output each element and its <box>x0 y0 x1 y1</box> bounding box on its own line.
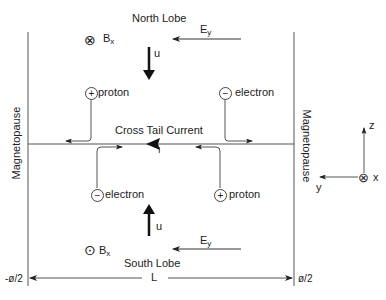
magnetotail-diagram: North Lobe ⊗ Bx Ey u + proton − electron… <box>0 0 386 300</box>
right-edge-label: ø/2 <box>298 274 312 284</box>
ey-sub: y <box>207 239 211 248</box>
south-bx-label: Bx <box>99 245 110 258</box>
south-proton-charge-icon: + <box>214 189 227 202</box>
south-electron-charge-icon: − <box>91 189 104 202</box>
current-symbol: I <box>158 146 161 155</box>
north-electron-label: electron <box>235 87 274 98</box>
south-proton-path <box>196 147 220 188</box>
south-bx-icon: ⊙ <box>84 243 96 257</box>
north-bx-icon: ⊗ <box>84 33 96 47</box>
z-axis-label: z <box>369 120 375 131</box>
right-magnetopause-label: Magnetopause <box>301 110 312 180</box>
y-axis-label: y <box>316 182 322 193</box>
south-lobe-title: South Lobe <box>124 258 180 269</box>
ey-sub: y <box>207 28 211 37</box>
left-edge-label: -ø/2 <box>5 274 23 284</box>
north-electron-path <box>225 100 252 141</box>
left-magnetopause-label: Magnetopause <box>11 110 22 180</box>
south-electron-label: electron <box>105 189 144 200</box>
north-proton-charge-icon: + <box>85 87 98 100</box>
x-axis-icon: ⊗ <box>358 171 369 184</box>
width-label: L <box>151 272 157 283</box>
bx-sub: x <box>110 37 114 46</box>
x-axis-label: x <box>373 172 379 183</box>
diagram-lines <box>0 0 386 300</box>
north-u-label: u <box>154 48 160 59</box>
south-electron-path <box>97 147 122 188</box>
south-ey-label: Ey <box>200 235 211 248</box>
north-lobe-title: North Lobe <box>132 13 186 24</box>
bx-sub: x <box>106 249 110 258</box>
north-electron-charge-icon: − <box>219 87 232 100</box>
north-ey-label: Ey <box>200 24 211 37</box>
north-bx-label: Bx <box>103 33 114 46</box>
north-proton-path <box>66 100 91 141</box>
north-proton-label: proton <box>98 87 129 98</box>
south-proton-label: proton <box>229 189 260 200</box>
south-u-label: u <box>156 221 162 232</box>
cross-tail-current-label: Cross Tail Current <box>115 125 203 136</box>
